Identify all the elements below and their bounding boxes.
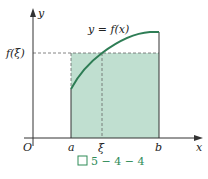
origin-label: O	[23, 141, 32, 154]
integral-mean-value-diagram: y x O a ξ b f(ξ) y = f(x) 图 5 − 4 − 4	[0, 0, 208, 179]
tick-label-a: a	[68, 141, 75, 154]
y-axis-arrow-icon	[30, 8, 36, 17]
tick-label-b: b	[155, 141, 162, 154]
mean-value-rectangle	[71, 53, 159, 138]
y-axis-label: y	[37, 7, 45, 20]
curve-label: y = f(x)	[87, 23, 129, 36]
tick-label-f-xi: f(ξ)	[5, 47, 25, 60]
caption-number: 5 − 4 − 4	[91, 155, 144, 168]
x-axis-label: x	[196, 141, 203, 154]
tick-label-xi: ξ	[98, 142, 105, 155]
